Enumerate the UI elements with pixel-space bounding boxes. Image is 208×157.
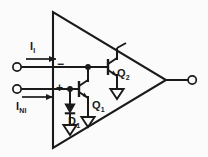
node-inverting — [85, 64, 91, 70]
current-arrow-inverting — [26, 56, 56, 62]
label-d1-subscript: 1 — [76, 122, 80, 129]
ground-q2-emitter — [110, 89, 123, 99]
wire-q2-collector-diagonal — [117, 43, 126, 48]
noninverting-input-sign: + — [56, 82, 63, 94]
q2-collector-lead — [108, 58, 117, 64]
d1-body — [65, 104, 74, 113]
transistor-q2 — [108, 58, 117, 76]
label-transistor-q1: Q1 — [92, 100, 104, 111]
noninverting-input-terminal[interactable] — [13, 85, 21, 93]
label-q2-subscript: 2 — [126, 74, 130, 81]
label-inverting-current: II — [30, 41, 35, 52]
label-noninverting-current: INI — [16, 101, 26, 112]
ground-q1-emitter — [81, 117, 94, 127]
output-lead — [166, 76, 196, 84]
label-q1-subscript: 1 — [101, 106, 105, 113]
circuit-schematic — [0, 0, 208, 157]
internal-wiring — [53, 43, 126, 117]
transistor-q1 — [79, 80, 88, 98]
inverting-input-sign: − — [57, 58, 64, 70]
label-d1-symbol: D — [68, 115, 76, 127]
node-noninverting — [67, 86, 73, 92]
amplifier-triangle — [53, 12, 166, 148]
label-q2-symbol: Q — [117, 67, 126, 79]
q1-collector-lead — [79, 80, 88, 86]
current-arrow-noninverting — [22, 94, 53, 100]
inverting-input-lead — [13, 63, 53, 71]
label-transistor-q2: Q2 — [117, 68, 129, 79]
schematic-canvas: II INI Q2 Q1 D1 − + — [0, 0, 208, 157]
amplifier-triangle-outline — [53, 12, 166, 148]
label-noninverting-current-subscript: NI — [19, 107, 26, 114]
output-terminal[interactable] — [188, 76, 196, 84]
inverting-input-terminal[interactable] — [13, 63, 21, 71]
noninverting-input-lead — [13, 85, 53, 93]
label-diode-d1: D1 — [68, 116, 80, 127]
label-q1-symbol: Q — [92, 99, 101, 111]
